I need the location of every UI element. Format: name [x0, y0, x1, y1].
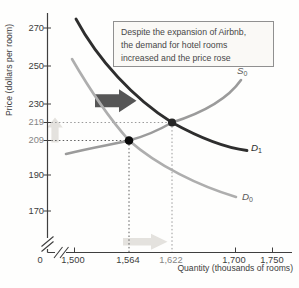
quantity-rise-arrow: [123, 234, 168, 250]
annotation-line: the demand for hotel rooms: [121, 39, 273, 52]
y-tick-219: 219: [14, 117, 44, 128]
y-axis-title: Price (dollars per room): [4, 10, 14, 116]
y-tick-250: 250: [14, 61, 44, 72]
demand-shift-arrow: [95, 89, 137, 112]
curve-subscript: 1: [258, 147, 262, 154]
annotation-line: Despite the expansion of Airbnb,: [121, 26, 273, 39]
x-axis-tick-marks: [75, 248, 273, 253]
y-tick-270: 270: [14, 23, 44, 34]
demand-new-curve-label: D1: [251, 142, 262, 153]
supply-demand-figure: Despite the expansion of Airbnb, the dem…: [0, 0, 299, 288]
y-tick-209: 209: [14, 135, 44, 146]
curve-subscript: 0: [244, 70, 248, 77]
demand-curve-initial: [72, 59, 236, 197]
curve-subscript: 0: [249, 196, 253, 203]
y-tick-190: 190: [14, 170, 44, 181]
x-axis-title: Quantity (thousands of rooms): [113, 263, 293, 273]
equilibrium-dot-new: [168, 119, 176, 127]
x-tick-1500: 1,500: [51, 255, 95, 266]
equilibrium-dot-initial: [125, 136, 134, 145]
annotation-box: Despite the expansion of Airbnb, the dem…: [113, 21, 274, 67]
price-rise-arrow: [47, 118, 63, 143]
y-tick-170: 170: [14, 206, 44, 217]
annotation-line: increased and the price rose: [121, 52, 273, 65]
supply-curve-label: S0: [237, 65, 247, 76]
demand-old-curve-label: D0: [242, 191, 253, 202]
y-tick-230: 230: [14, 99, 44, 110]
